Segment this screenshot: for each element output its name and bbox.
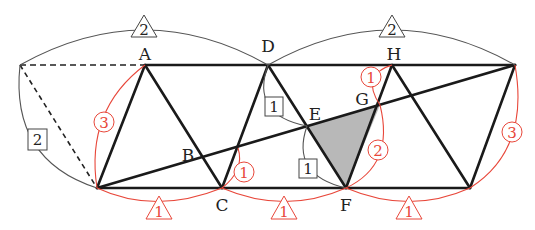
svg-text:2: 2: [139, 21, 149, 39]
red-circle-label-1-HG: 1: [361, 67, 381, 87]
red-circle-label-2-GF: 2: [368, 140, 388, 160]
geometry-diagram: 2 2 2 1 1 3 1 1 2 3 1 1: [0, 0, 535, 230]
box-label-left-side: 2: [28, 129, 47, 150]
svg-text:1: 1: [404, 203, 414, 221]
red-triangle-label-base-2: 1: [271, 196, 297, 221]
svg-text:3: 3: [507, 124, 517, 142]
point-label-G: G: [355, 89, 369, 109]
svg-text:1: 1: [269, 98, 279, 116]
svg-text:1: 1: [279, 203, 289, 221]
point-label-E: E: [309, 104, 321, 124]
svg-text:3: 3: [99, 114, 109, 132]
svg-text:1: 1: [303, 160, 313, 178]
black-triangle-label-top-right: 2: [379, 15, 405, 39]
red-circle-label-1-CB: 1: [234, 162, 254, 182]
svg-text:1: 1: [366, 69, 376, 87]
svg-text:2: 2: [33, 131, 43, 149]
red-circle-label-3-right: 3: [502, 122, 522, 142]
black-triangle-label-top-left: 2: [131, 15, 157, 39]
box-label-DE: 1: [265, 97, 283, 116]
svg-text:2: 2: [387, 21, 397, 39]
red-circle-label-3-left: 3: [94, 112, 114, 132]
point-label-B: B: [182, 145, 195, 165]
box-label-EF: 1: [299, 159, 317, 178]
svg-text:1: 1: [154, 203, 164, 221]
diagram-svg: 2 2 2 1 1 3 1 1 2 3 1 1: [0, 0, 535, 230]
svg-text:2: 2: [373, 142, 383, 160]
point-label-F: F: [340, 195, 352, 215]
red-triangle-label-base-1: 1: [146, 196, 172, 221]
red-triangle-label-base-3: 1: [396, 196, 422, 221]
point-label-D: D: [261, 36, 275, 56]
point-label-H: H: [387, 44, 402, 64]
point-label-C: C: [215, 195, 228, 215]
point-label-A: A: [138, 44, 152, 64]
svg-text:1: 1: [239, 164, 249, 182]
